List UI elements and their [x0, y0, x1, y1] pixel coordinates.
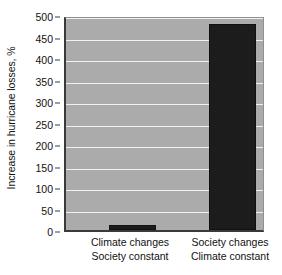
x-tick-label-line: Climate changes — [75, 236, 185, 250]
y-tick-mark — [55, 232, 60, 233]
y-tick-label: 0 — [47, 227, 53, 238]
y-tick-label: 150 — [35, 162, 53, 173]
y-tick-label: 350 — [35, 76, 53, 87]
y-tick-label: 250 — [35, 119, 53, 130]
x-tick-label: Society changesClimate constant — [175, 236, 282, 263]
bar — [209, 24, 256, 230]
y-axis-tick-labels: 050100150200250300350400450500 — [22, 17, 60, 232]
x-tick-label-line: Society constant — [75, 250, 185, 264]
y-tick-label: 500 — [35, 12, 53, 23]
y-tick-mark — [55, 210, 60, 211]
x-tick-label: Climate changesSociety constant — [75, 236, 185, 263]
y-tick-mark — [55, 124, 60, 125]
bar — [109, 225, 156, 230]
x-tick-label-line: Climate constant — [175, 250, 282, 264]
y-tick-label: 450 — [35, 33, 53, 44]
y-tick-label: 400 — [35, 55, 53, 66]
y-tick-mark — [55, 17, 60, 18]
bar-chart-figure: Increase in hurricane losses, % 05010015… — [0, 0, 282, 275]
y-tick-mark — [55, 81, 60, 82]
bars-layer — [66, 18, 263, 230]
y-tick-mark — [55, 60, 60, 61]
x-tick-label-line: Society changes — [175, 236, 282, 250]
y-tick-mark — [55, 189, 60, 190]
plot-area — [64, 17, 264, 232]
x-axis-tick-labels: Climate changesSociety constantSociety c… — [64, 236, 264, 274]
y-axis-title: Increase in hurricane losses, % — [0, 0, 22, 236]
y-tick-label: 300 — [35, 98, 53, 109]
y-tick-mark — [55, 167, 60, 168]
y-tick-label: 100 — [35, 184, 53, 195]
y-tick-mark — [55, 38, 60, 39]
y-tick-mark — [55, 146, 60, 147]
y-tick-label: 200 — [35, 141, 53, 152]
y-tick-label: 50 — [41, 205, 53, 216]
y-tick-mark — [55, 103, 60, 104]
y-axis-title-text: Increase in hurricane losses, % — [5, 47, 17, 190]
